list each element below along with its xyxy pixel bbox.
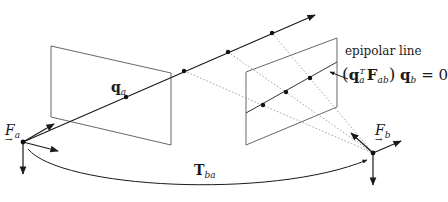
frame-b-subscript: b: [385, 130, 391, 140]
q-a-subscript: a: [121, 87, 126, 97]
eq-q-symbol: q: [349, 66, 360, 84]
q-a-symbol: q: [111, 79, 121, 95]
eq-qb-subscript: b: [411, 75, 417, 85]
eq-f-symbol: F: [367, 66, 378, 84]
epi-point-3-dot: [308, 76, 312, 80]
eq-rhs: = 0: [421, 66, 448, 84]
ray-point-1-dot: [182, 69, 186, 73]
epipolar-equation: (qaTFab) qb = 0: [342, 64, 448, 85]
frame-b-vector-arrow: →: [375, 135, 383, 144]
ray-point-3-dot: [270, 31, 274, 35]
eq-f-subscript: ab: [378, 75, 389, 85]
frame-a-vector-arrow: →: [5, 135, 13, 144]
epi-point-2-dot: [284, 90, 288, 94]
label-frame-b: Fb →: [375, 122, 390, 140]
origin-a-dot: [21, 140, 26, 145]
eq-q-subscript: a: [359, 75, 364, 85]
ray-point-2-dot: [226, 50, 230, 54]
eq-transpose-superscript: T: [360, 67, 365, 76]
image-plane-b: [246, 38, 337, 145]
eq-open-paren: (: [342, 64, 349, 84]
label-q-a: qa: [111, 79, 126, 97]
transform-subscript: ba: [204, 170, 215, 180]
eq-qb-symbol: q: [400, 66, 411, 84]
label-frame-a: Fa →: [5, 122, 20, 140]
label-transform: Tba: [194, 162, 216, 180]
transform-symbol: T: [194, 162, 204, 178]
epi-point-1-dot: [261, 103, 265, 107]
origin-b-dot: [371, 151, 376, 156]
frame-a-subscript: a: [15, 130, 20, 140]
epipolar-line-caption: epipolar line: [345, 44, 422, 58]
epipolar-line: [246, 62, 337, 113]
eq-close-paren: ): [389, 64, 396, 84]
